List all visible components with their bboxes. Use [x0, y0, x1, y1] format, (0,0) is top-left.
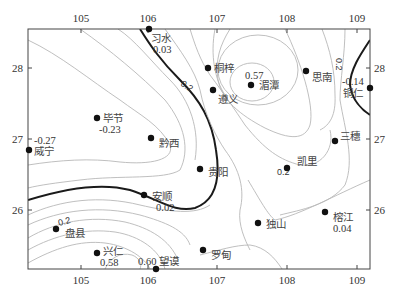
station-marker[interactable]: [255, 220, 261, 226]
station-sinan[interactable]: 思南: [303, 68, 332, 83]
station-tongzi[interactable]: 桐梓: [205, 62, 235, 74]
svg-text:0.04: 0.04: [333, 223, 352, 234]
svg-text:罗甸: 罗甸: [211, 249, 231, 261]
svg-text:107: 107: [209, 12, 226, 24]
station-qianxi[interactable]: 黔西: [148, 135, 179, 149]
svg-text:思南: 思南: [312, 71, 332, 83]
svg-text:习水: 习水: [151, 32, 172, 44]
station-bijie[interactable]: 毕节 -0.23: [94, 112, 123, 135]
svg-text:105: 105: [73, 274, 90, 286]
svg-text:26: 26: [374, 204, 386, 216]
station-kaili[interactable]: 凯里: [284, 155, 317, 171]
contour-line: [28, 210, 190, 245]
svg-text:榕江: 榕江: [333, 211, 354, 223]
svg-text:28: 28: [374, 62, 386, 74]
svg-text:威宁: 威宁: [34, 145, 54, 157]
svg-text:108: 108: [279, 274, 296, 286]
station-anshun[interactable]: 安顺 0.02: [141, 190, 175, 213]
svg-text:兴仁: 兴仁: [103, 245, 123, 257]
svg-text:三穗: 三穗: [340, 130, 361, 142]
station-marker[interactable]: [26, 147, 32, 153]
station-marker[interactable]: [303, 68, 309, 74]
station-sansui[interactable]: 三穗: [332, 130, 361, 144]
svg-text:盘县: 盘县: [65, 227, 85, 239]
svg-text:109: 109: [349, 274, 366, 286]
station-xishui[interactable]: 习水 0.03: [146, 26, 172, 55]
contour-line: [280, 29, 349, 215]
svg-text:0.02: 0.02: [156, 202, 174, 213]
svg-text:26: 26: [12, 204, 24, 216]
y-tick-27: 27 27: [12, 133, 386, 145]
svg-text:凯里: 凯里: [297, 155, 317, 167]
station-marker[interactable]: [284, 165, 290, 171]
station-marker[interactable]: [210, 87, 216, 93]
station-marker[interactable]: [141, 192, 147, 198]
station-dushan[interactable]: 独山: [255, 218, 286, 230]
svg-text:独山: 独山: [266, 218, 286, 230]
station-guiyang[interactable]: 贵阳: [197, 166, 228, 178]
svg-text:铜仁: 铜仁: [343, 87, 363, 99]
svg-text:毕节: 毕节: [103, 112, 123, 124]
station-marker[interactable]: [53, 226, 59, 232]
svg-text:27: 27: [374, 133, 386, 145]
station-weining[interactable]: -0.27 威宁: [26, 135, 56, 157]
contour-line: [28, 200, 210, 215]
svg-text:望谟: 望谟: [159, 255, 180, 267]
station-marker[interactable]: [94, 250, 100, 256]
svg-text:贵阳: 贵阳: [208, 166, 228, 178]
contour-label: 0.2: [334, 58, 344, 71]
station-tongren[interactable]: -0.14 铜仁: [342, 76, 373, 99]
station-marker[interactable]: [248, 82, 254, 88]
svg-text:107: 107: [209, 274, 226, 286]
svg-text:108: 108: [279, 12, 296, 24]
svg-text:106: 106: [140, 12, 157, 24]
svg-text:109: 109: [349, 12, 366, 24]
station-marker[interactable]: [322, 209, 328, 215]
station-xingren[interactable]: 兴仁 0.58: [94, 245, 123, 268]
contour-line: [190, 29, 331, 165]
contour-map: 105 105 106 106 107 107 108 108 109 109 …: [0, 0, 397, 299]
svg-text:0.58: 0.58: [100, 257, 118, 268]
svg-text:湄潭: 湄潭: [259, 79, 279, 91]
station-wangmo[interactable]: 0.60 望谟: [138, 255, 180, 272]
station-marker[interactable]: [148, 135, 154, 141]
station-marker[interactable]: [205, 65, 211, 71]
x-tick-109: 109 109: [349, 12, 366, 286]
station-marker[interactable]: [197, 166, 203, 172]
contour-labels: 0.2 0.2 0.2 0.2: [57, 58, 344, 228]
station-meitan[interactable]: 0.57 湄潭: [245, 70, 279, 91]
svg-text:桐梓: 桐梓: [214, 62, 235, 74]
svg-text:106: 106: [140, 274, 157, 286]
station-rongjiang[interactable]: 榕江 0.04: [322, 209, 354, 234]
contour-line: [28, 242, 150, 269]
svg-text:28: 28: [12, 62, 24, 74]
station-marker[interactable]: [200, 247, 206, 253]
contour-label: 0.2: [57, 215, 72, 228]
svg-text:0.60: 0.60: [138, 256, 156, 267]
svg-text:遵义: 遵义: [218, 93, 239, 105]
svg-text:-0.14: -0.14: [342, 76, 365, 87]
svg-text:105: 105: [73, 12, 90, 24]
svg-text:安顺: 安顺: [152, 190, 173, 202]
svg-text:黔西: 黔西: [159, 137, 179, 149]
svg-text:0.03: 0.03: [153, 44, 171, 55]
station-marker[interactable]: [332, 138, 338, 144]
stations: 习水 0.03 桐梓 遵义 0.57 湄潭 思南 -0.14 铜仁: [26, 26, 373, 272]
svg-text:27: 27: [12, 133, 24, 145]
svg-text:-0.23: -0.23: [99, 124, 121, 135]
station-marker[interactable]: [94, 115, 100, 121]
station-marker[interactable]: [367, 85, 373, 91]
